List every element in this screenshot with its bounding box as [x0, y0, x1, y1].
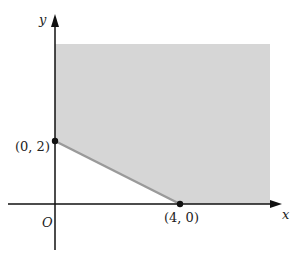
feasible-region-diagram: y x O (0, 2) (4, 0) [0, 0, 299, 259]
x-axis-label: x [282, 208, 289, 221]
y-axis-arrow-icon [51, 14, 59, 27]
point-4-0 [177, 201, 183, 207]
point-label-0-2: (0, 2) [15, 140, 50, 153]
origin-label: O [42, 216, 53, 229]
point-label-4-0: (4, 0) [164, 211, 199, 224]
y-axis-label: y [39, 13, 46, 26]
shaded-feasible-region [55, 44, 270, 204]
x-axis-arrow-icon [270, 200, 282, 208]
point-0-2 [52, 138, 58, 144]
